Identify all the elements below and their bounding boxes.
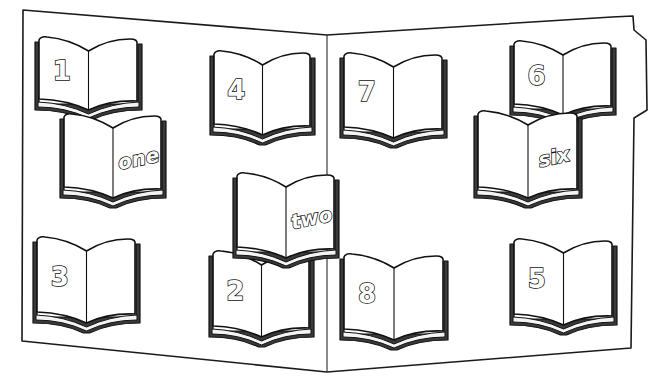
open-book-card[interactable]: 8 xyxy=(340,254,448,350)
book-label: 7 xyxy=(358,77,376,107)
book-label: 4 xyxy=(227,75,245,105)
open-book-card[interactable]: 4 xyxy=(210,51,315,145)
book-label: 8 xyxy=(358,279,376,309)
open-book-card[interactable]: 3 xyxy=(33,237,140,333)
open-book-card[interactable]: one xyxy=(60,114,166,208)
open-book-card[interactable]: six xyxy=(474,111,582,208)
book-label: 6 xyxy=(527,61,545,91)
open-book-card[interactable]: two xyxy=(233,173,339,268)
open-book-card[interactable]: 5 xyxy=(510,239,617,335)
book-label: 2 xyxy=(226,276,244,306)
open-book-card[interactable]: 2 xyxy=(209,251,314,347)
book-label: 1 xyxy=(53,56,71,86)
open-book-card[interactable]: 6 xyxy=(510,41,616,125)
open-book-card[interactable]: 7 xyxy=(340,53,447,148)
books-layer: 1one476six32two85 xyxy=(33,37,617,350)
file-folder-worksheet: 1one476six32two85 xyxy=(0,0,668,386)
book-label: 5 xyxy=(528,264,546,294)
open-book-card[interactable]: 1 xyxy=(35,37,142,120)
book-label: 3 xyxy=(51,262,69,292)
